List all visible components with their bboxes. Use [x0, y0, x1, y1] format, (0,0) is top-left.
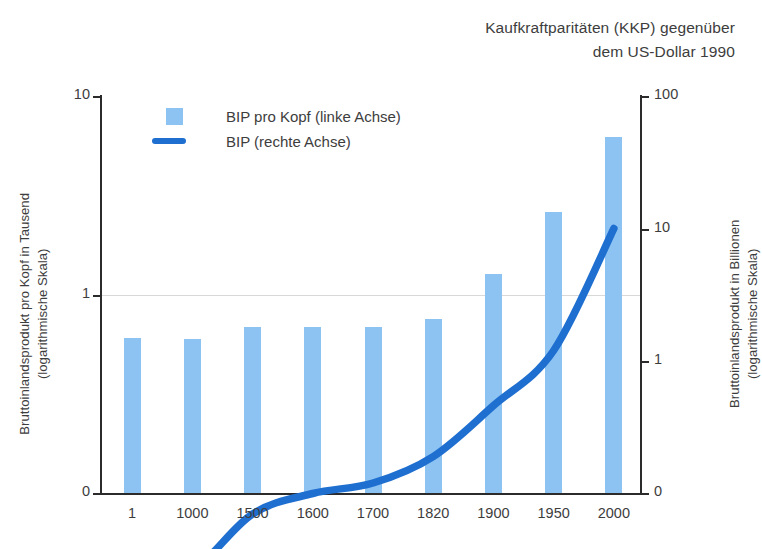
right-tick-label-0: 0	[654, 483, 662, 499]
right-tick-10	[642, 229, 649, 231]
left-tick-0	[93, 493, 100, 495]
bar-1600	[304, 327, 321, 493]
right-axis-title: Bruttoinlandsprodukt in Billionen (logar…	[726, 104, 762, 524]
chart-subtitle: Kaufkraftparitäten (KKP) gegenüber dem U…	[315, 16, 735, 64]
x-tick-label-1820: 1820	[417, 505, 449, 521]
bar-1	[124, 338, 141, 494]
x-tick-label-1600: 1600	[297, 505, 329, 521]
plot-area: 10 1 0 100 10 1 0 1100015001600170018201…	[100, 95, 642, 495]
legend-line-swatch-icon	[162, 138, 186, 144]
right-tick-100	[642, 96, 649, 98]
left-tick-1	[93, 295, 100, 297]
bar-2000	[605, 137, 622, 493]
left-tick-label-10: 10	[74, 86, 90, 102]
x-tick-label-1900: 1900	[477, 505, 509, 521]
x-tick-label-1700: 1700	[357, 505, 389, 521]
bar-1950	[545, 212, 562, 493]
x-axis-line	[100, 493, 642, 495]
left-axis-title-line-2: (logarithmische Skala)	[34, 104, 52, 524]
subtitle-line-1: Kaufkraftparitäten (KKP) gegenüber	[315, 16, 735, 40]
left-tick-label-1: 1	[82, 285, 90, 301]
right-tick-label-100: 100	[654, 86, 678, 102]
legend-item-bip: BIP (rechte Achse)	[162, 129, 401, 153]
bar-1900	[485, 274, 502, 494]
x-tick-label-1500: 1500	[236, 505, 268, 521]
right-axis-title-line-2: (logarithmische Skala)	[744, 104, 762, 524]
x-tick-label-2000: 2000	[598, 505, 630, 521]
right-axis-title-line-1: Bruttoinlandsprodukt in Billionen	[727, 220, 742, 408]
right-tick-0	[642, 493, 649, 495]
right-axis-line	[640, 95, 642, 495]
left-axis-title: Bruttoinlandsprodukt pro Kopf in Tausend…	[16, 104, 52, 524]
bar-1700	[365, 327, 382, 493]
bar-1500	[244, 327, 261, 493]
x-tick-label-1950: 1950	[538, 505, 570, 521]
legend-label-bip: BIP (rechte Achse)	[226, 133, 351, 150]
left-axis-title-line-1: Bruttoinlandsprodukt pro Kopf in Tausend	[17, 193, 32, 435]
legend-item-bip-pro-kopf: BIP pro Kopf (linke Achse)	[162, 104, 401, 128]
bar-1000	[184, 339, 201, 493]
x-tick-label-1: 1	[128, 505, 136, 521]
left-tick-10	[93, 96, 100, 98]
legend-label-bip-pro-kopf: BIP pro Kopf (linke Achse)	[226, 108, 401, 125]
right-tick-label-1: 1	[654, 351, 662, 367]
right-tick-label-10: 10	[654, 219, 670, 235]
subtitle-line-2: dem US-Dollar 1990	[315, 40, 735, 64]
legend-bar-swatch-icon	[162, 108, 186, 125]
x-tick-label-1000: 1000	[176, 505, 208, 521]
bar-1820	[425, 319, 442, 494]
right-tick-1	[642, 361, 649, 363]
left-axis-line	[100, 95, 102, 495]
chart-legend: BIP pro Kopf (linke Achse) BIP (rechte A…	[162, 104, 401, 154]
left-tick-label-0: 0	[82, 483, 90, 499]
